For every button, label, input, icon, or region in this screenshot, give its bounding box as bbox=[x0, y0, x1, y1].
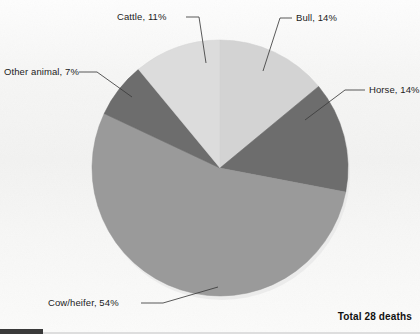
slice-label-cattle: Cattle, 11% bbox=[117, 12, 167, 22]
scan-edge-artifact bbox=[0, 329, 43, 334]
slice-label-other-animal: Other animal, 7% bbox=[4, 67, 79, 77]
total-deaths-annotation: Total 28 deaths bbox=[338, 311, 412, 322]
pie-and-leaders-svg bbox=[0, 0, 420, 334]
pie-chart: Cattle, 11% Bull, 14% Horse, 14% Other a… bbox=[0, 0, 420, 334]
chart-screenshot: Cattle, 11% Bull, 14% Horse, 14% Other a… bbox=[0, 0, 420, 334]
slice-label-horse: Horse, 14% bbox=[369, 85, 420, 95]
slice-label-bull: Bull, 14% bbox=[296, 13, 337, 23]
slice-label-cow-heifer: Cow/heifer, 54% bbox=[48, 298, 119, 308]
